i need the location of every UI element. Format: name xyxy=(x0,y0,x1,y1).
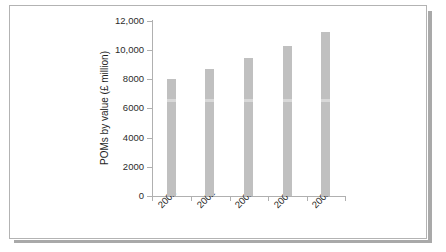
x-axis-tick xyxy=(345,196,346,201)
y-axis-line xyxy=(152,20,153,197)
y-axis-tick-label: 8000 xyxy=(123,74,144,84)
x-axis-tick xyxy=(230,196,231,201)
bar-banding-artifact xyxy=(244,99,253,102)
bar-2002 xyxy=(205,69,214,196)
y-axis-tick xyxy=(147,167,152,168)
bar-2003 xyxy=(244,58,253,196)
y-axis-tick-label: 4000 xyxy=(123,133,144,143)
y-axis-tick xyxy=(147,50,152,51)
figure-root: POMs by value (£ million) 0 2000 4000 60… xyxy=(0,0,446,252)
y-axis-tick-label: 10,000 xyxy=(115,45,144,55)
bar-banding-artifact xyxy=(205,99,214,102)
y-axis-tick xyxy=(147,138,152,139)
y-axis-tick-label: 12,000 xyxy=(115,16,144,26)
y-axis-tick-label: 2000 xyxy=(123,162,144,172)
y-axis-tick-label: 0 xyxy=(139,191,144,201)
x-axis-tick xyxy=(152,196,153,201)
y-axis-tick xyxy=(147,108,152,109)
y-axis-tick xyxy=(147,79,152,80)
bar-2004 xyxy=(283,46,292,196)
bar-banding-artifact xyxy=(283,99,292,102)
y-axis-tick-label: 6000 xyxy=(123,103,144,113)
y-axis-tick xyxy=(147,21,152,22)
bar-banding-artifact xyxy=(321,99,330,102)
bar-2001 xyxy=(167,79,176,196)
y-axis-title: POMs by value (£ million) xyxy=(99,51,110,165)
x-axis-tick xyxy=(268,196,269,201)
bar-banding-artifact xyxy=(167,99,176,102)
x-axis-tick xyxy=(307,196,308,201)
bar-2005 xyxy=(321,32,330,196)
bar-chart-plot: POMs by value (£ million) 0 2000 4000 60… xyxy=(0,0,446,252)
x-axis-tick xyxy=(191,196,192,201)
